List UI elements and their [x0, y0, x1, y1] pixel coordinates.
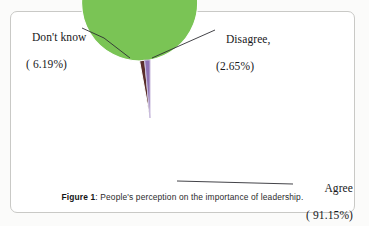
pie-label-dontknow-name: Don't know [32, 31, 87, 43]
pie-label-disagree-percent: (2.65%) [214, 60, 271, 74]
figure-caption-number: Figure 1 [62, 192, 96, 202]
figure-screenshot: Don't know ( 6.19%) Disagree, (2.65%) Ag… [0, 0, 369, 226]
figure-caption: Figure 1: People's perception on the imp… [11, 192, 354, 203]
pie-label-dontknow-percent: ( 6.19%) [20, 58, 86, 72]
pie-label-dontknow: Don't know ( 6.19%) [20, 17, 86, 98]
leader-line-agree [177, 181, 293, 184]
figure-caption-text: : People's perception on the importance … [95, 192, 303, 202]
pie-label-disagree: Disagree, (2.65%) [214, 19, 271, 100]
pie-label-agree-percent: ( 91.15%) [283, 209, 353, 223]
pie-slice-agree[interactable] [82, 0, 198, 118]
pie-label-disagree-name: Disagree, [226, 33, 271, 45]
